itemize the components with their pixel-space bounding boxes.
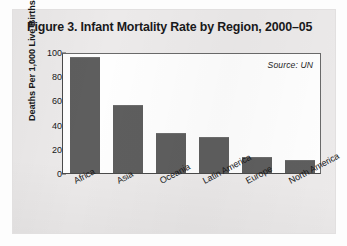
scanned-page: Figure 3. Infant Mortality Rate by Regio… (0, 0, 347, 246)
y-tick-label: 60 (36, 97, 62, 106)
figure-card: Figure 3. Infant Mortality Rate by Regio… (13, 10, 335, 233)
y-axis-tick-labels: 020406080100 (32, 53, 62, 174)
y-tick-label: 80 (36, 73, 62, 82)
plot-frame: Source: UN (62, 53, 321, 174)
y-tick-label: 100 (36, 49, 62, 58)
y-tick-label: 0 (36, 170, 62, 179)
bar-asia (113, 105, 143, 173)
y-tick-label: 40 (36, 121, 62, 130)
bar-africa (70, 57, 100, 173)
plot-area (63, 54, 320, 173)
figure-title: Figure 3. Infant Mortality Rate by Regio… (27, 20, 327, 34)
y-tick-label: 20 (36, 145, 62, 154)
